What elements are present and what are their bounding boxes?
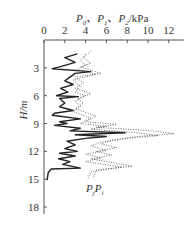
series-pj-line [47,54,125,180]
x-tick-label: 0 [41,24,47,36]
x-tick-label: 4 [83,24,89,36]
y-tick-label: 18 [28,201,40,213]
y-tick-label: 15 [28,173,40,185]
y-tick-label: 9 [34,118,40,130]
y-tick-label: 6 [34,90,40,102]
x-tick-label: 10 [143,24,155,36]
x-tick-label: 8 [124,24,130,36]
y-tick-label: 12 [28,145,39,157]
x-tick-label: 12 [163,24,174,36]
y-axis-label: H/m [17,101,29,120]
series-pi-line [75,51,174,177]
x-tick-label: 2 [62,24,68,36]
curve-annotation: PjPi [86,182,103,197]
y-tick-label: 3 [34,62,40,74]
x-tick-label: 6 [104,24,110,36]
